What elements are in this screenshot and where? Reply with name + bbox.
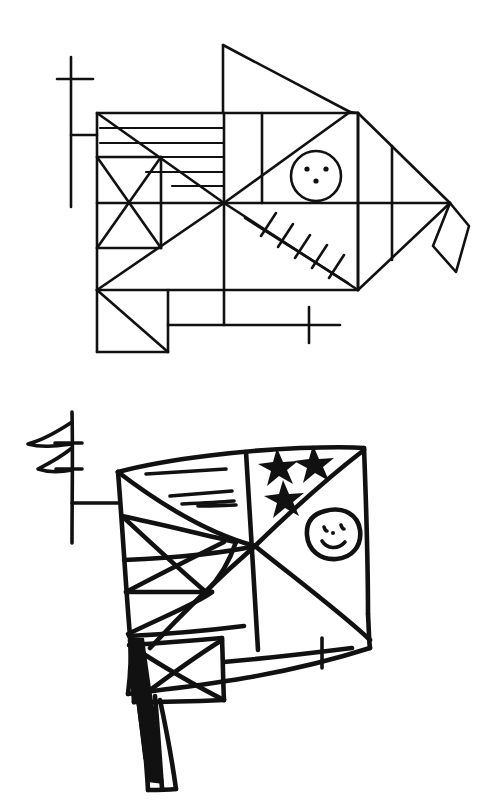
pennant-pole	[28, 412, 118, 543]
sail-triangle	[223, 45, 350, 113]
figure-bottom-freehand-drawing: Freehand version of the same fish/kite: …	[0, 400, 491, 808]
vertical-dividers	[224, 113, 358, 325]
drawing-page: Geometric fish/kite figure made of strai…	[0, 0, 491, 808]
star-1	[258, 448, 298, 486]
eye-dot-centre	[313, 178, 318, 183]
lower-rail	[168, 307, 340, 343]
lower-rail	[224, 638, 352, 668]
figure-top-ruled-drawing: Geometric fish/kite figure made of strai…	[0, 0, 491, 400]
fishbone	[245, 213, 348, 283]
star-3	[264, 480, 304, 518]
mast-pole	[57, 57, 97, 207]
tail-triangle	[350, 112, 450, 290]
eye-circle	[291, 151, 341, 201]
leg-square	[97, 290, 168, 352]
eye-dot-left	[304, 166, 309, 171]
eye-dot-right	[323, 166, 328, 171]
body-outline	[118, 447, 370, 694]
smiley-face	[307, 510, 360, 559]
